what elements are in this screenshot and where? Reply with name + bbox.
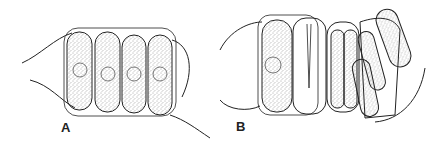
panel-label-a: A bbox=[61, 120, 70, 135]
panel-a-drawing bbox=[22, 28, 210, 138]
panel-label-b: B bbox=[236, 119, 245, 134]
panel-b-drawing bbox=[220, 6, 425, 122]
